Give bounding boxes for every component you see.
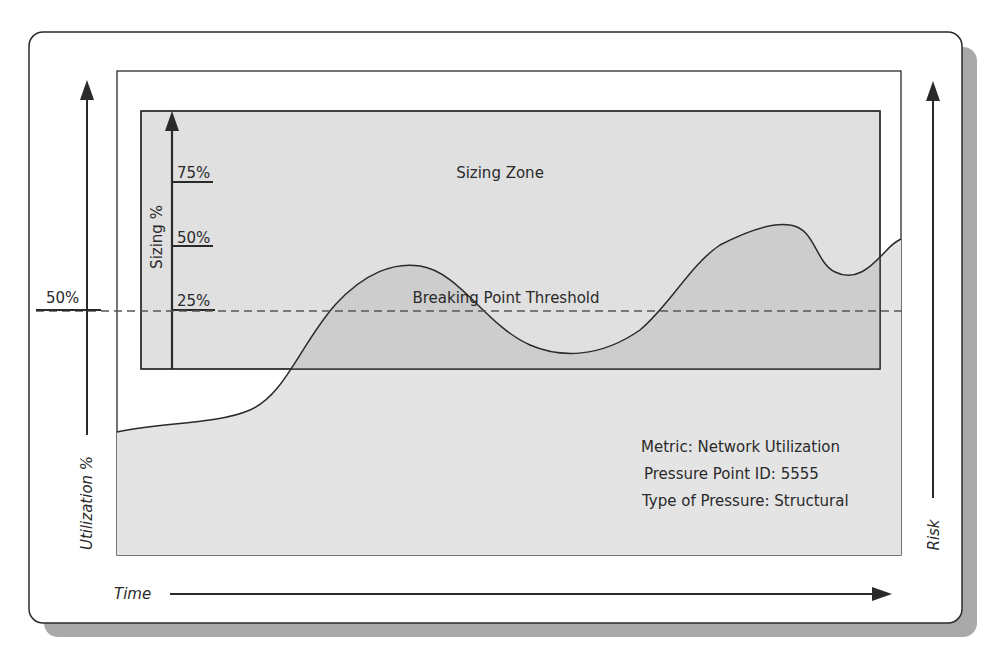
sizing-axis-label: Sizing % [148,205,166,269]
utilization-axis-label: Utilization % [78,456,96,550]
threshold-label: Breaking Point Threshold [412,289,599,307]
tick-label-25: 25% [177,292,210,310]
threshold-value-label: 50% [46,289,79,307]
tick-label-50: 50% [177,229,210,247]
pressure-point-diagram: 75% 50% 25% Sizing % Sizing Zone 50% Bre… [0,0,1001,662]
pressure-point-id-label: Pressure Point ID: 5555 [644,465,819,483]
pressure-type-label: Type of Pressure: Structural [641,492,849,510]
time-axis-label: Time [114,585,151,603]
tick-label-75: 75% [177,164,210,182]
metric-label: Metric: Network Utilization [641,438,840,456]
risk-axis-label: Risk [925,518,943,550]
sizing-zone-label: Sizing Zone [456,164,544,182]
